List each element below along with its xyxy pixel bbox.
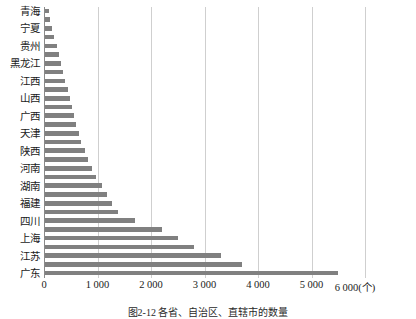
bar-row	[44, 94, 365, 103]
bar	[44, 218, 135, 223]
bar-row	[44, 182, 365, 191]
category-label: 黑龙江	[10, 58, 40, 69]
category-label: 四川	[20, 216, 40, 227]
category-label: 江西	[20, 76, 40, 87]
bar	[44, 245, 194, 250]
bar-row	[44, 199, 365, 208]
bar-row	[44, 226, 365, 235]
bar	[44, 140, 81, 145]
bar	[44, 210, 118, 215]
bar-row	[44, 208, 365, 217]
bar	[44, 52, 59, 57]
bar	[44, 61, 61, 66]
category-label: 广西	[20, 111, 40, 122]
bar	[44, 105, 72, 110]
category-label: 陕西	[20, 146, 40, 157]
bar-row	[44, 77, 365, 86]
bar	[44, 26, 52, 31]
category-label: 江苏	[20, 251, 40, 262]
bar	[44, 262, 242, 267]
bar-row	[44, 16, 365, 25]
category-label: 贵州	[20, 41, 40, 52]
bar	[44, 113, 74, 118]
category-label: 河南	[20, 163, 40, 174]
bar-row	[44, 42, 365, 51]
bar-row	[44, 252, 365, 261]
bar-row	[44, 261, 365, 270]
bar	[44, 201, 112, 206]
bar-row	[44, 86, 365, 95]
category-axis-labels: 青海宁夏贵州黑龙江江西山西广西天津陕西河南湖南福建四川上海江苏广东	[0, 7, 42, 278]
bar	[44, 271, 338, 276]
bar	[44, 192, 107, 197]
bar	[44, 44, 57, 49]
bar	[44, 96, 70, 101]
category-label: 湖南	[20, 181, 40, 192]
bar-row	[44, 68, 365, 77]
x-tick-label: 2 000	[139, 279, 163, 290]
x-tick-label: 3 000	[193, 279, 217, 290]
bar	[44, 175, 96, 180]
category-label: 山西	[20, 93, 40, 104]
bar-row	[44, 173, 365, 182]
bar-row	[44, 121, 365, 130]
category-label: 广东	[20, 268, 40, 279]
x-tick-label: 0	[41, 279, 46, 290]
category-label: 福建	[20, 198, 40, 209]
bar-row	[44, 217, 365, 226]
bar-row	[44, 129, 365, 138]
x-tick-label: 5 000	[300, 279, 324, 290]
gridline	[365, 7, 366, 278]
bar	[44, 183, 102, 188]
bar-row	[44, 103, 365, 112]
bar	[44, 253, 221, 258]
bar	[44, 122, 76, 127]
x-tick-label: 4 000	[246, 279, 270, 290]
bar	[44, 148, 85, 153]
category-label: 上海	[20, 233, 40, 244]
bar-row	[44, 156, 365, 165]
bar	[44, 236, 178, 241]
bar-row	[44, 112, 365, 121]
y-axis-line	[44, 7, 45, 278]
bar-row	[44, 243, 365, 252]
bar-row	[44, 138, 365, 147]
bar	[44, 79, 65, 84]
figure-caption: 图2-12 各省、自治区、直辖市的数量	[0, 304, 416, 319]
bar-series	[44, 7, 365, 278]
bar-row	[44, 164, 365, 173]
bar	[44, 227, 162, 232]
x-axis-tick-labels: 01 0002 0003 0004 0005 0006 000(个)	[0, 279, 416, 295]
bar-row	[44, 59, 365, 68]
bar	[44, 35, 54, 40]
bar	[44, 166, 92, 171]
bar-row	[44, 147, 365, 156]
bar-row	[44, 51, 365, 60]
bar	[44, 157, 88, 162]
x-axis-unit: (个)	[358, 282, 375, 293]
bar-row	[44, 234, 365, 243]
category-label: 宁夏	[20, 23, 40, 34]
x-tick-label: 1 000	[86, 279, 110, 290]
x-tick-label: 6 000(个)	[335, 279, 376, 294]
bar	[44, 87, 68, 92]
bar-row	[44, 33, 365, 42]
bar-row	[44, 191, 365, 200]
category-label: 天津	[20, 128, 40, 139]
bar-row	[44, 24, 365, 33]
bar-row	[44, 269, 365, 278]
plot-area	[44, 7, 365, 278]
category-label: 青海	[20, 6, 40, 17]
bar	[44, 131, 79, 136]
bar	[44, 70, 63, 75]
bar-row	[44, 7, 365, 16]
